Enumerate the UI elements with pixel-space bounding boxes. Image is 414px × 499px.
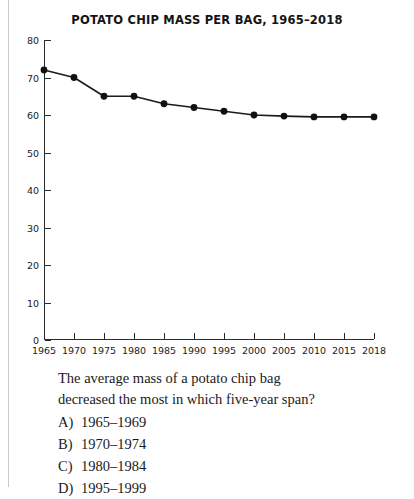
x-tick-label: 2018 [362, 345, 386, 356]
answer-choice-text: 1995–1999 [81, 477, 146, 499]
y-tick-label: 30 [27, 222, 39, 233]
y-tick-label: 50 [27, 147, 39, 158]
y-tick-label: 70 [27, 72, 39, 83]
x-tick-label: 1970 [62, 345, 86, 356]
answer-choice[interactable]: A)1965–1969 [58, 411, 398, 433]
answer-choice-text: 1970–1974 [81, 433, 146, 455]
data-point [221, 108, 228, 115]
x-tick-label: 1995 [212, 345, 236, 356]
y-tick-label: 40 [27, 185, 39, 196]
data-point [281, 113, 288, 120]
x-tick-label: 1975 [92, 345, 116, 356]
answer-choice[interactable]: D)1995–1999 [58, 477, 398, 499]
chart-figure: POTATO CHIP MASS PER BAG, 1965–2018 0102… [0, 0, 414, 365]
x-tick [374, 333, 375, 339]
y-tick-label: 60 [27, 110, 39, 121]
x-tick-label: 1980 [122, 345, 146, 356]
question-block: The average mass of a potato chip bag de… [58, 368, 398, 499]
answer-choice-letter: D) [58, 477, 81, 499]
data-point [341, 113, 348, 120]
y-tick-label: 10 [27, 297, 39, 308]
answer-choice-letter: C) [58, 455, 81, 477]
y-tick-label: 0 [33, 335, 39, 346]
y-tick [45, 340, 51, 341]
question-stem-line-2: decreased the most in which five-year sp… [58, 389, 398, 410]
answer-choices: A)1965–1969B)1970–1974C)1980–1984D)1995–… [58, 411, 398, 499]
x-tick-label: 2005 [272, 345, 296, 356]
x-tick-label: 1965 [32, 345, 56, 356]
x-tick-label: 2010 [302, 345, 326, 356]
x-tick-label: 2000 [242, 345, 266, 356]
data-point [191, 104, 198, 111]
y-tick-label: 80 [27, 35, 39, 46]
data-point [161, 100, 168, 107]
answer-choice-text: 1980–1984 [81, 455, 146, 477]
question-stem-line-1: The average mass of a potato chip bag [58, 368, 398, 389]
data-point [371, 113, 378, 120]
x-tick-label: 2015 [332, 345, 356, 356]
answer-choice-letter: A) [58, 411, 81, 433]
data-point [251, 112, 258, 119]
data-series [44, 40, 374, 340]
question-stem: The average mass of a potato chip bag de… [58, 368, 398, 410]
x-tick-label: 1985 [152, 345, 176, 356]
answer-choice[interactable]: C)1980–1984 [58, 455, 398, 477]
answer-choice[interactable]: B)1970–1974 [58, 433, 398, 455]
data-point [131, 93, 138, 100]
answer-choice-letter: B) [58, 433, 81, 455]
data-point [101, 93, 108, 100]
x-tick-label: 1990 [182, 345, 206, 356]
series-line [44, 70, 374, 117]
y-tick-label: 20 [27, 260, 39, 271]
answer-choice-text: 1965–1969 [81, 411, 146, 433]
plot-area: 01020304050607080 1965197019751980198519… [44, 40, 374, 340]
chart-title: POTATO CHIP MASS PER BAG, 1965–2018 [0, 13, 414, 27]
data-point [311, 113, 318, 120]
data-point [41, 67, 48, 74]
data-point [71, 74, 78, 81]
